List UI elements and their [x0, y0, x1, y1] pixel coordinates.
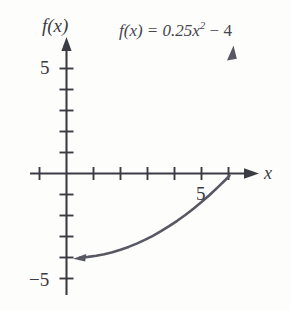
curve-end-arrowhead [227, 46, 237, 61]
y-tick-label-negative-5: −5 [29, 270, 49, 289]
function-curve [80, 176, 230, 258]
x-tick-label-5: 5 [196, 184, 206, 203]
curve-start-arrowhead [73, 254, 86, 262]
equation-tail-text: − 4 [205, 21, 232, 40]
coordinate-plane [0, 0, 291, 311]
x-axis-arrowhead [244, 168, 259, 179]
function-graph-figure: f(x) x 5 −5 5 f(x) = 0.25x2 − 4 [0, 0, 291, 311]
x-axis-label: x [264, 164, 272, 182]
y-axis-arrowhead [61, 37, 71, 51]
equation-annotation: f(x) = 0.25x2 − 4 [119, 20, 232, 39]
y-axis-label: f(x) [42, 16, 68, 35]
equation-main-text: f(x) = 0.25x [119, 21, 200, 40]
y-tick-label-5: 5 [40, 58, 50, 77]
